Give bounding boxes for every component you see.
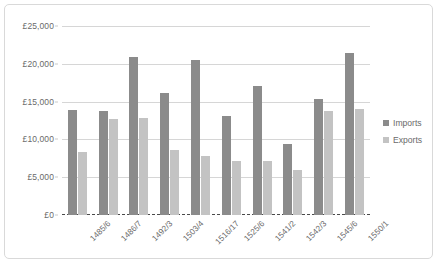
plot-area [62,26,370,215]
x-axis: 1485/61486/71492/31503/41516/171525/6154… [62,217,370,259]
bar-exports-1485-6[interactable] [78,152,87,216]
x-axis-tick-label: 1503/4 [181,219,205,243]
bar-group [93,26,124,215]
legend-swatch-icon [383,120,389,126]
bar-group [216,26,247,215]
y-axis-tick-label: £20,000 [23,59,54,69]
legend-label: Imports [393,118,422,128]
bar-imports-1541-2[interactable] [253,86,262,215]
bar-group [339,26,370,215]
y-axis-tick-mark [55,26,58,27]
bar-exports-1541-2[interactable] [263,161,272,215]
bar-group [308,26,339,215]
bar-imports-1485-6[interactable] [68,110,77,215]
y-axis-tick-label: £25,000 [23,21,54,31]
bar-exports-1492-3[interactable] [139,118,148,215]
x-axis-tick-label: 1545/6 [335,219,359,243]
bar-exports-1503-4[interactable] [170,150,179,215]
x-axis-tick-label: 1525/6 [243,219,267,243]
x-axis-tick-label: 1492/3 [150,219,174,243]
y-axis: £0£5,000£10,000£15,000£20,000£25,000 [11,26,58,215]
bar-group [247,26,278,215]
bar-imports-1492-3[interactable] [129,57,138,215]
legend-swatch-icon [383,137,389,143]
y-axis-tick-mark [55,177,58,178]
chart-container: £0£5,000£10,000£15,000£20,000£25,000 148… [4,4,433,259]
bar-exports-1486-7[interactable] [109,119,118,215]
bar-imports-1503-4[interactable] [160,93,169,215]
bar-imports-1516-17[interactable] [191,60,200,215]
bar-exports-1516-17[interactable] [201,156,210,215]
bar-imports-1550-1[interactable] [345,53,354,215]
y-axis-tick-mark [55,63,58,64]
y-axis-tick-label: £15,000 [23,97,54,107]
bar-exports-1550-1[interactable] [355,109,364,215]
y-axis-tick-label: £10,000 [23,134,54,144]
bar-imports-1525-6[interactable] [222,116,231,215]
chart-legend: ImportsExports [383,118,439,152]
bar-imports-1545-6[interactable] [314,99,323,215]
x-axis-tick-label: 1485/6 [89,219,113,243]
y-axis-tick-mark [55,139,58,140]
bar-imports-1542-3[interactable] [283,144,292,215]
y-axis-tick-label: £5,000 [27,172,54,182]
bar-exports-1525-6[interactable] [232,161,241,215]
bar-exports-1542-3[interactable] [293,170,302,215]
x-axis-tick-label: 1550/1 [366,219,390,243]
x-axis-tick-label: 1486/7 [120,219,144,243]
x-axis-tick-label: 1541/2 [274,219,298,243]
legend-label: Exports [393,135,422,145]
bar-group [124,26,155,215]
bar-group [62,26,93,215]
bar-imports-1486-7[interactable] [99,111,108,215]
y-axis-tick-label: £0 [44,210,54,220]
y-axis-tick-mark [55,215,58,216]
x-axis-tick-label: 1542/3 [304,219,328,243]
bar-group [185,26,216,215]
x-axis-tick-label: 1516/17 [213,219,240,246]
legend-item-imports[interactable]: Imports [383,118,439,128]
bar-exports-1545-6[interactable] [324,111,333,215]
y-axis-tick-mark [55,101,58,102]
legend-item-exports[interactable]: Exports [383,135,439,145]
bar-group [154,26,185,215]
bar-group [278,26,309,215]
